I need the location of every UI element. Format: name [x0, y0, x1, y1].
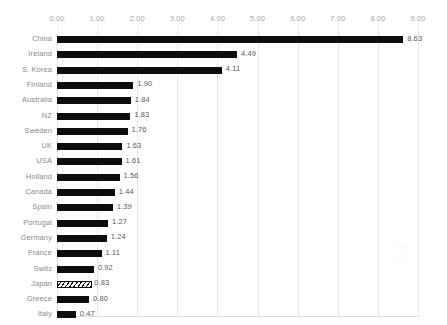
value-label: 1.27	[112, 217, 127, 226]
value-label: 0.83	[94, 278, 109, 287]
bar[interactable]	[57, 235, 107, 242]
bar[interactable]	[57, 36, 403, 43]
x-tick-label: 5.00	[238, 14, 278, 23]
bar-chart: 0.001.002.003.004.005.006.007.008.009.00…	[0, 0, 447, 325]
bar[interactable]	[57, 250, 102, 257]
bar-row: Ireland4.49	[0, 47, 447, 62]
value-label: 1.76	[132, 125, 147, 134]
bar[interactable]	[57, 51, 237, 58]
value-label: 1.24	[111, 232, 126, 241]
bar[interactable]	[57, 296, 89, 303]
x-tick-label: 8.00	[358, 14, 398, 23]
x-tick-label: 3.00	[157, 14, 197, 23]
category-label: UK	[0, 141, 52, 150]
bar-row: China8.63	[0, 32, 447, 47]
x-tick-label: 9.00	[398, 14, 438, 23]
category-label: Finland	[0, 80, 52, 89]
value-label: 1.84	[135, 95, 150, 104]
bar-row: Finland1.90	[0, 78, 447, 93]
value-label: 4.11	[226, 64, 240, 73]
value-label: 1.44	[119, 187, 134, 196]
bar[interactable]	[57, 174, 120, 181]
category-label: Canada	[0, 187, 52, 196]
category-label: Australia	[0, 95, 52, 104]
bar-row: Spain1.39	[0, 200, 447, 215]
bar[interactable]	[57, 82, 133, 89]
value-label: 1.83	[134, 110, 149, 119]
bar[interactable]	[57, 266, 94, 273]
value-label: 0.47	[80, 309, 95, 318]
value-label: 1.11	[106, 248, 120, 257]
category-label: S. Korea	[0, 65, 52, 74]
bar-row: Switz0.92	[0, 262, 447, 277]
x-tick-label: 7.00	[318, 14, 358, 23]
bar-row: Japan0.83	[0, 277, 447, 292]
bar[interactable]	[57, 189, 115, 196]
bar[interactable]	[57, 113, 130, 120]
x-tick-label: 4.00	[197, 14, 237, 23]
bar-row: Italy0.47	[0, 307, 447, 322]
bar-row: NZ1.83	[0, 109, 447, 124]
value-label: 0.80	[93, 294, 108, 303]
value-label: 1.61	[126, 156, 141, 165]
category-label: USA	[0, 156, 52, 165]
bar-row: France1.11	[0, 246, 447, 261]
category-label: Japan	[0, 279, 52, 288]
bar[interactable]	[57, 311, 76, 318]
value-label: 1.63	[126, 141, 141, 150]
bar[interactable]	[57, 143, 122, 150]
x-tick-label: 0.00	[37, 14, 77, 23]
value-label: 4.49	[241, 49, 256, 58]
bar-row: S. Korea4.11	[0, 63, 447, 78]
category-label: Germany	[0, 233, 52, 242]
x-tick-label: 6.00	[278, 14, 318, 23]
x-axis: 0.001.002.003.004.005.006.007.008.009.00	[0, 14, 447, 28]
bar-row: Greece0.80	[0, 292, 447, 307]
bar-row: Portugal1.27	[0, 216, 447, 231]
bar-row: Australia1.84	[0, 93, 447, 108]
bar[interactable]	[57, 158, 122, 165]
category-label: Greece	[0, 294, 52, 303]
bar[interactable]	[57, 220, 108, 227]
bar[interactable]	[57, 204, 113, 211]
bar[interactable]	[57, 97, 131, 104]
bar-row: Holland1.56	[0, 170, 447, 185]
bar-row: Sweden1.76	[0, 124, 447, 139]
bar[interactable]	[57, 281, 92, 288]
value-label: 0.92	[98, 263, 113, 272]
bar-row: UK1.63	[0, 139, 447, 154]
bar[interactable]	[57, 128, 128, 135]
bar-row: USA1.61	[0, 154, 447, 169]
category-label: Switz	[0, 264, 52, 273]
x-tick-label: 1.00	[77, 14, 117, 23]
category-label: Spain	[0, 202, 52, 211]
value-label: 1.56	[124, 171, 139, 180]
x-tick-label: 2.00	[117, 14, 157, 23]
category-label: Italy	[0, 309, 52, 318]
category-label: Ireland	[0, 49, 52, 58]
bar-row: Germany1.24	[0, 231, 447, 246]
category-label: China	[0, 34, 52, 43]
category-label: Portugal	[0, 218, 52, 227]
value-label: 1.90	[137, 79, 152, 88]
category-label: Sweden	[0, 126, 52, 135]
bar-row: Canada1.44	[0, 185, 447, 200]
bar[interactable]	[57, 67, 222, 74]
value-label: 1.39	[117, 202, 132, 211]
category-label: Holland	[0, 172, 52, 181]
category-label: France	[0, 248, 52, 257]
category-label: NZ	[0, 111, 52, 120]
value-label: 8.63	[407, 34, 422, 43]
